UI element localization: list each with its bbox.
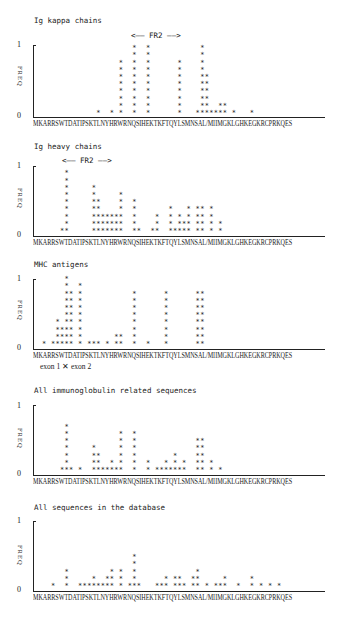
- frequency-star: *: [195, 576, 200, 583]
- x-axis: [33, 591, 325, 592]
- frequency-star: *: [64, 576, 69, 583]
- frequency-star: *: [195, 569, 200, 576]
- y-axis-top-tick: [33, 521, 36, 522]
- frequency-star: *: [136, 583, 141, 590]
- frequency-star: *: [118, 569, 123, 576]
- frequency-star: *: [277, 583, 282, 590]
- frequency-star: *: [164, 583, 169, 590]
- frequency-star: *: [132, 569, 137, 576]
- frequency-star: *: [195, 583, 200, 590]
- frequency-star: *: [249, 576, 254, 583]
- frequency-star: *: [132, 554, 137, 561]
- frequency-star: *: [222, 576, 227, 583]
- frequency-star: *: [204, 583, 209, 590]
- panel-title: All sequences in the database: [34, 503, 165, 512]
- frequency-star: *: [64, 583, 69, 590]
- frequency-star: *: [182, 583, 187, 590]
- frequency-star: *: [51, 583, 56, 590]
- frequency-star: *: [249, 583, 254, 590]
- sequence-labels: MKARRSWTDATIPSKTLNYHRWRNQSIHEKTKFTQYLSMN…: [33, 593, 292, 602]
- frequency-star: *: [236, 583, 241, 590]
- frequency-star: *: [109, 583, 114, 590]
- frequency-star: *: [64, 569, 69, 576]
- frequency-star: *: [132, 561, 137, 568]
- frequency-star: *: [164, 576, 169, 583]
- frequency-star: *: [259, 583, 264, 590]
- frequency-star: *: [222, 583, 227, 590]
- y-tick-0: 0: [17, 585, 21, 594]
- y-axis-label: FREQ: [17, 545, 24, 566]
- frequency-star: *: [109, 576, 114, 583]
- frequency-star: *: [268, 583, 273, 590]
- y-axis: [33, 521, 34, 591]
- y-tick-1: 1: [17, 516, 21, 525]
- frequency-star: *: [118, 583, 123, 590]
- frequency-star: *: [118, 576, 123, 583]
- frequency-star: *: [109, 569, 114, 576]
- panel-all-sequences: All sequences in the database 1 0 FREQ M…: [0, 0, 342, 618]
